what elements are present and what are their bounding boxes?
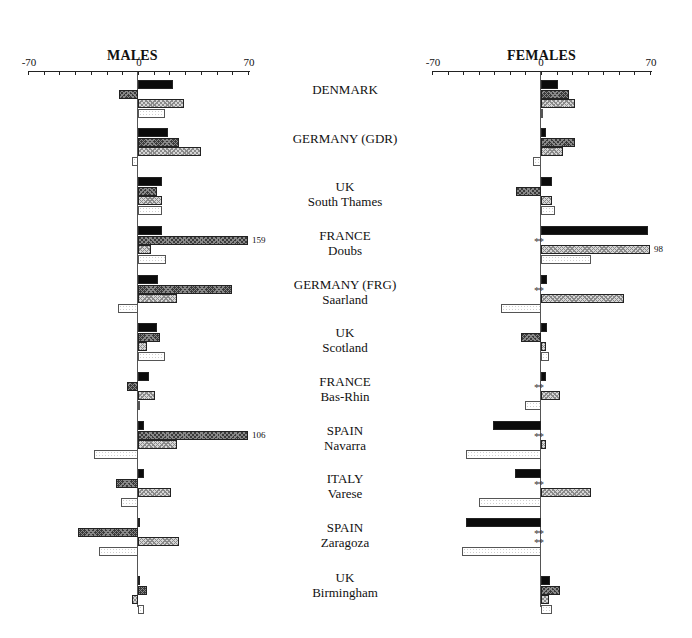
region-country: ITALY: [250, 471, 440, 486]
bar-males-series2: [116, 479, 138, 488]
region-area: South Thames: [250, 194, 440, 209]
females-axis-tick: [603, 71, 604, 75]
region-area: Scotland: [250, 340, 440, 355]
bar-males-series2: [138, 285, 232, 294]
bar-females-series3: [541, 391, 560, 400]
bar-males-series1: [138, 226, 162, 235]
bar-females-series1: [493, 421, 541, 430]
bar-females-series1: [541, 80, 558, 89]
males-axis-tick: [217, 71, 218, 75]
region-label: UKBirmingham: [250, 570, 440, 600]
bar-males-series2: [119, 90, 138, 99]
females-axis-tick: [432, 71, 433, 75]
bar-males-series3: [138, 391, 155, 400]
bar-males-series4: [138, 605, 144, 614]
bar-females-series3: [541, 440, 546, 449]
bar-males-series1: [138, 128, 168, 137]
region-area: Birmingham: [250, 585, 440, 600]
males-axis-tick: [185, 71, 186, 75]
bar-males-series2: [138, 586, 147, 595]
bar-females-series3: [541, 99, 575, 108]
males-axis-tick: [75, 71, 76, 75]
males-axis-tick: [248, 71, 249, 75]
region-label: FRANCEDoubs: [250, 228, 440, 258]
region-label: UKSouth Thames: [250, 179, 440, 209]
bar-females-series1: [541, 576, 550, 585]
bar-females-series4: [525, 401, 541, 410]
females-axis-tick: [634, 71, 635, 75]
bar-females-series1: [541, 128, 546, 137]
region-country: SPAIN: [250, 520, 440, 535]
males-tick-label-min: -70: [22, 56, 37, 68]
region-area: Varese: [250, 486, 440, 501]
bar-females-series4: [541, 605, 552, 614]
bar-females-series1: [541, 177, 552, 186]
region-country: DENMARK: [250, 82, 440, 97]
females-axis-tick: [479, 71, 480, 75]
bar-males-series3: [138, 99, 184, 108]
females-axis-tick: [650, 71, 651, 75]
bar-males-series3: [138, 537, 179, 546]
region-country: FRANCE: [250, 374, 440, 389]
region-label: FRANCEBas-Rhin: [250, 374, 440, 404]
bar-males-series3: [138, 488, 171, 497]
bar-males-series1: [138, 518, 140, 527]
bar-males-series4: [118, 304, 138, 313]
males-axis-tick: [169, 71, 170, 75]
region-label: GERMANY (GDR): [250, 131, 440, 146]
bar-females-series3: [541, 294, 624, 303]
region-area: Navarra: [250, 438, 440, 453]
bar-males-series2: [138, 333, 160, 342]
bar-males-series3: [138, 196, 162, 205]
females-tick-label-zero: 0: [538, 56, 544, 68]
region-country: GERMANY (GDR): [250, 131, 440, 146]
bar-males-series2: [138, 138, 179, 147]
bar-males-series2: [78, 528, 138, 537]
bar-males-series3: [138, 342, 147, 351]
males-axis-tick: [232, 71, 233, 75]
bar-males-series4: [138, 401, 140, 410]
bar-males-series2: [138, 236, 248, 245]
bar-females-series4: [541, 206, 555, 215]
females-tick-label-min: -70: [426, 56, 441, 68]
bar-females-series4: [541, 109, 543, 118]
bar-males-series4: [121, 498, 138, 507]
bar-females-series4: [533, 157, 541, 166]
bar-males-series4: [99, 547, 138, 556]
bar-males-series1: [138, 469, 144, 478]
males-tick-label-zero: 0: [136, 56, 142, 68]
bar-males-series4: [138, 352, 165, 361]
males-tick-label-max: 70: [244, 56, 255, 68]
bar-males-series2: [138, 431, 248, 440]
bar-males-series4: [132, 157, 138, 166]
females-axis-tick: [541, 71, 542, 75]
region-label: SPAINZaragoza: [250, 520, 440, 550]
bar-females-series2: [541, 586, 560, 595]
bar-females-series2: [541, 90, 569, 99]
bar-females-series2: [516, 187, 541, 196]
females-axis-tick: [525, 71, 526, 75]
males-axis-tick: [154, 71, 155, 75]
bar-females-series4: [479, 498, 541, 507]
bar-males-series1: [138, 576, 140, 585]
bar-females-series1: [541, 323, 547, 332]
females-tick-label-max: 70: [646, 56, 657, 68]
bar-males-series1: [138, 177, 162, 186]
bar-females-series3: [541, 488, 591, 497]
bar-males-series2: [127, 382, 138, 391]
bar-females-series4: [541, 352, 549, 361]
bar-females-series3: [541, 196, 552, 205]
females-axis-tick: [448, 71, 449, 75]
region-label: ITALYVarese: [250, 471, 440, 501]
bar-males-series3: [138, 147, 201, 156]
males-axis-tick: [201, 71, 202, 75]
bar-females-series1: [541, 372, 546, 381]
females-axis-tick: [572, 71, 573, 75]
males-axis-tick: [138, 71, 139, 75]
males-axis-tick: [107, 71, 108, 75]
region-label: UKScotland: [250, 325, 440, 355]
bar-males-series4: [138, 109, 165, 118]
bar-males-series2: [138, 187, 157, 196]
bar-females-series3: [541, 245, 650, 254]
region-country: UK: [250, 179, 440, 194]
